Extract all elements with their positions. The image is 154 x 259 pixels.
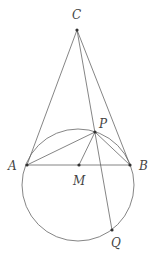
label-q: Q <box>111 236 121 250</box>
point-a <box>25 163 28 166</box>
figure-shapes <box>22 28 134 241</box>
segment-pm <box>79 132 95 165</box>
point-p <box>93 130 96 133</box>
segment-cb <box>77 30 130 165</box>
point-q <box>110 228 113 231</box>
point-b <box>128 163 131 166</box>
geometry-figure: CABMPQ <box>0 0 154 259</box>
label-a: A <box>7 159 17 173</box>
label-p: P <box>98 117 108 131</box>
label-m: M <box>72 174 86 188</box>
segment-pb <box>95 132 130 165</box>
point-c <box>75 28 78 31</box>
label-b: B <box>138 159 148 173</box>
point-m <box>77 163 80 166</box>
label-c: C <box>72 8 81 22</box>
